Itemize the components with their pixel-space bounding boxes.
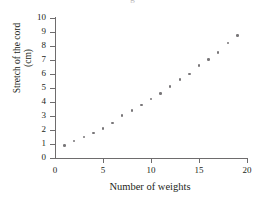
x-tick-mark [151, 158, 152, 163]
data-point [140, 104, 143, 107]
y-tick-label: 8 [32, 41, 48, 51]
y-tick-label: 4 [32, 97, 48, 107]
y-tick-label: 0 [32, 153, 48, 163]
y-tick-label: 3 [32, 111, 48, 121]
data-point [207, 58, 210, 61]
x-tick-label-text: 20 [235, 165, 259, 175]
x-tick-mark [103, 158, 104, 163]
data-point [236, 34, 239, 37]
data-point [63, 144, 66, 147]
y-tick-label-text: 2 [32, 125, 46, 134]
y-tick-label-text: 5 [32, 83, 46, 92]
x-tick-label-text: 5 [91, 165, 115, 175]
y-tick-label-text: 3 [32, 111, 46, 120]
data-point [159, 92, 162, 95]
y-tick-label: 10 [32, 13, 48, 23]
x-tick-label: 10 [139, 165, 163, 176]
y-tick-label: 1 [32, 139, 48, 149]
data-point [92, 132, 95, 135]
data-point [179, 78, 182, 81]
y-tick-label-text: 8 [32, 41, 46, 50]
y-tick-mark [50, 158, 55, 159]
x-tick-label: 20 [235, 165, 259, 176]
y-tick-label-text: 9 [32, 27, 46, 36]
x-tick-label: 5 [91, 165, 115, 176]
y-tick-label-text: 6 [32, 69, 46, 78]
y-axis-title: Stretch of the cord (cm) [12, 0, 34, 133]
data-point [131, 109, 134, 112]
x-axis-title: Number of weights [40, 181, 260, 193]
y-tick-label-text: 4 [32, 97, 46, 106]
y-axis-title-line-1: Stretch of the cord [12, 0, 23, 133]
y-axis-title-line-2: (cm) [23, 0, 34, 133]
scatter-chart-figure: g 012345678910 05101520 Stretch of the c… [0, 0, 265, 204]
x-tick-mark [247, 158, 248, 163]
y-tick-label: 6 [32, 69, 48, 79]
y-tick-label: 5 [32, 83, 48, 93]
y-tick-label-text: 1 [32, 139, 46, 148]
x-tick-label: 0 [43, 165, 67, 176]
x-tick-label-text: 0 [43, 165, 67, 175]
y-tick-label-text: 10 [32, 13, 46, 22]
y-tick-label: 7 [32, 55, 48, 65]
x-tick-label-text: 15 [187, 165, 211, 175]
y-tick-label-text: 0 [32, 153, 46, 162]
x-tick-label: 15 [187, 165, 211, 176]
y-tick-label: 2 [32, 125, 48, 135]
x-tick-mark [199, 158, 200, 163]
x-tick-label-text: 10 [139, 165, 163, 175]
y-tick-label-text: 7 [32, 55, 46, 64]
y-tick-label: 9 [32, 27, 48, 37]
cut-off-title-fragment: g [0, 0, 265, 5]
